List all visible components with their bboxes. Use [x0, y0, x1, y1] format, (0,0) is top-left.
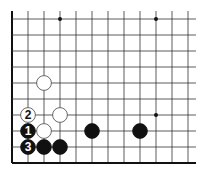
black-stone	[85, 124, 100, 139]
white-stone: 2	[21, 108, 36, 123]
black-stone	[37, 140, 52, 155]
black-stone-circle	[37, 140, 52, 155]
move-number-label: 3	[25, 140, 32, 154]
star-point-icon	[154, 113, 158, 117]
go-board: 213	[0, 0, 208, 177]
move-number-label: 1	[25, 124, 32, 138]
black-stone	[133, 124, 148, 139]
white-stone	[37, 76, 52, 91]
star-point-icon	[58, 17, 62, 21]
black-stone: 3	[21, 140, 36, 155]
black-stone-circle	[133, 124, 148, 139]
black-stone-circle	[85, 124, 100, 139]
star-point-icon	[154, 17, 158, 21]
move-number-label: 2	[25, 108, 32, 122]
white-stone-circle	[53, 108, 68, 123]
black-stone	[53, 140, 68, 155]
black-stone: 1	[21, 124, 36, 139]
white-stone	[53, 108, 68, 123]
white-stone-circle	[37, 124, 52, 139]
white-stone-circle	[37, 76, 52, 91]
white-stone	[37, 124, 52, 139]
black-stone-circle	[53, 140, 68, 155]
